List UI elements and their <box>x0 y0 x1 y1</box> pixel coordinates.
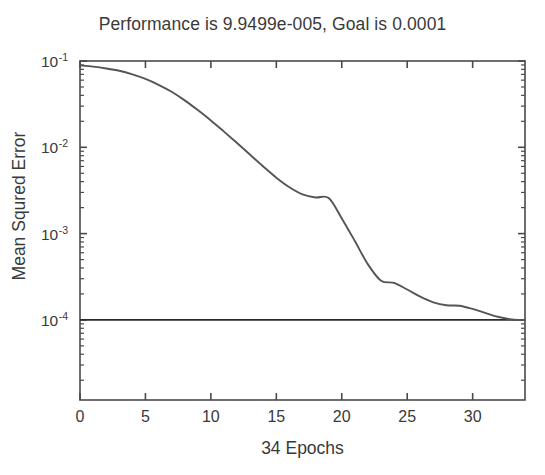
x-tick-label: 25 <box>398 408 416 425</box>
y-tick-label: 10-3 <box>41 224 68 243</box>
performance-plot-figure: Performance is 9.9499e-005, Goal is 0.00… <box>0 0 545 475</box>
y-tick-label: 10-1 <box>41 51 68 70</box>
plot-box <box>80 61 525 400</box>
x-tick-label: 0 <box>76 408 85 425</box>
y-tick-label: 10-2 <box>41 137 68 156</box>
x-tick-label: 30 <box>464 408 482 425</box>
x-tick-label: 10 <box>202 408 220 425</box>
axes-area: 10-110-210-310-4051015202530 <box>0 0 545 475</box>
x-axis-label: 34 Epochs <box>80 438 525 459</box>
y-tick-label: 10-4 <box>41 310 68 329</box>
x-tick-label: 20 <box>333 408 351 425</box>
x-tick-label: 15 <box>267 408 285 425</box>
training-performance-curve <box>80 65 525 320</box>
x-tick-label: 5 <box>141 408 150 425</box>
